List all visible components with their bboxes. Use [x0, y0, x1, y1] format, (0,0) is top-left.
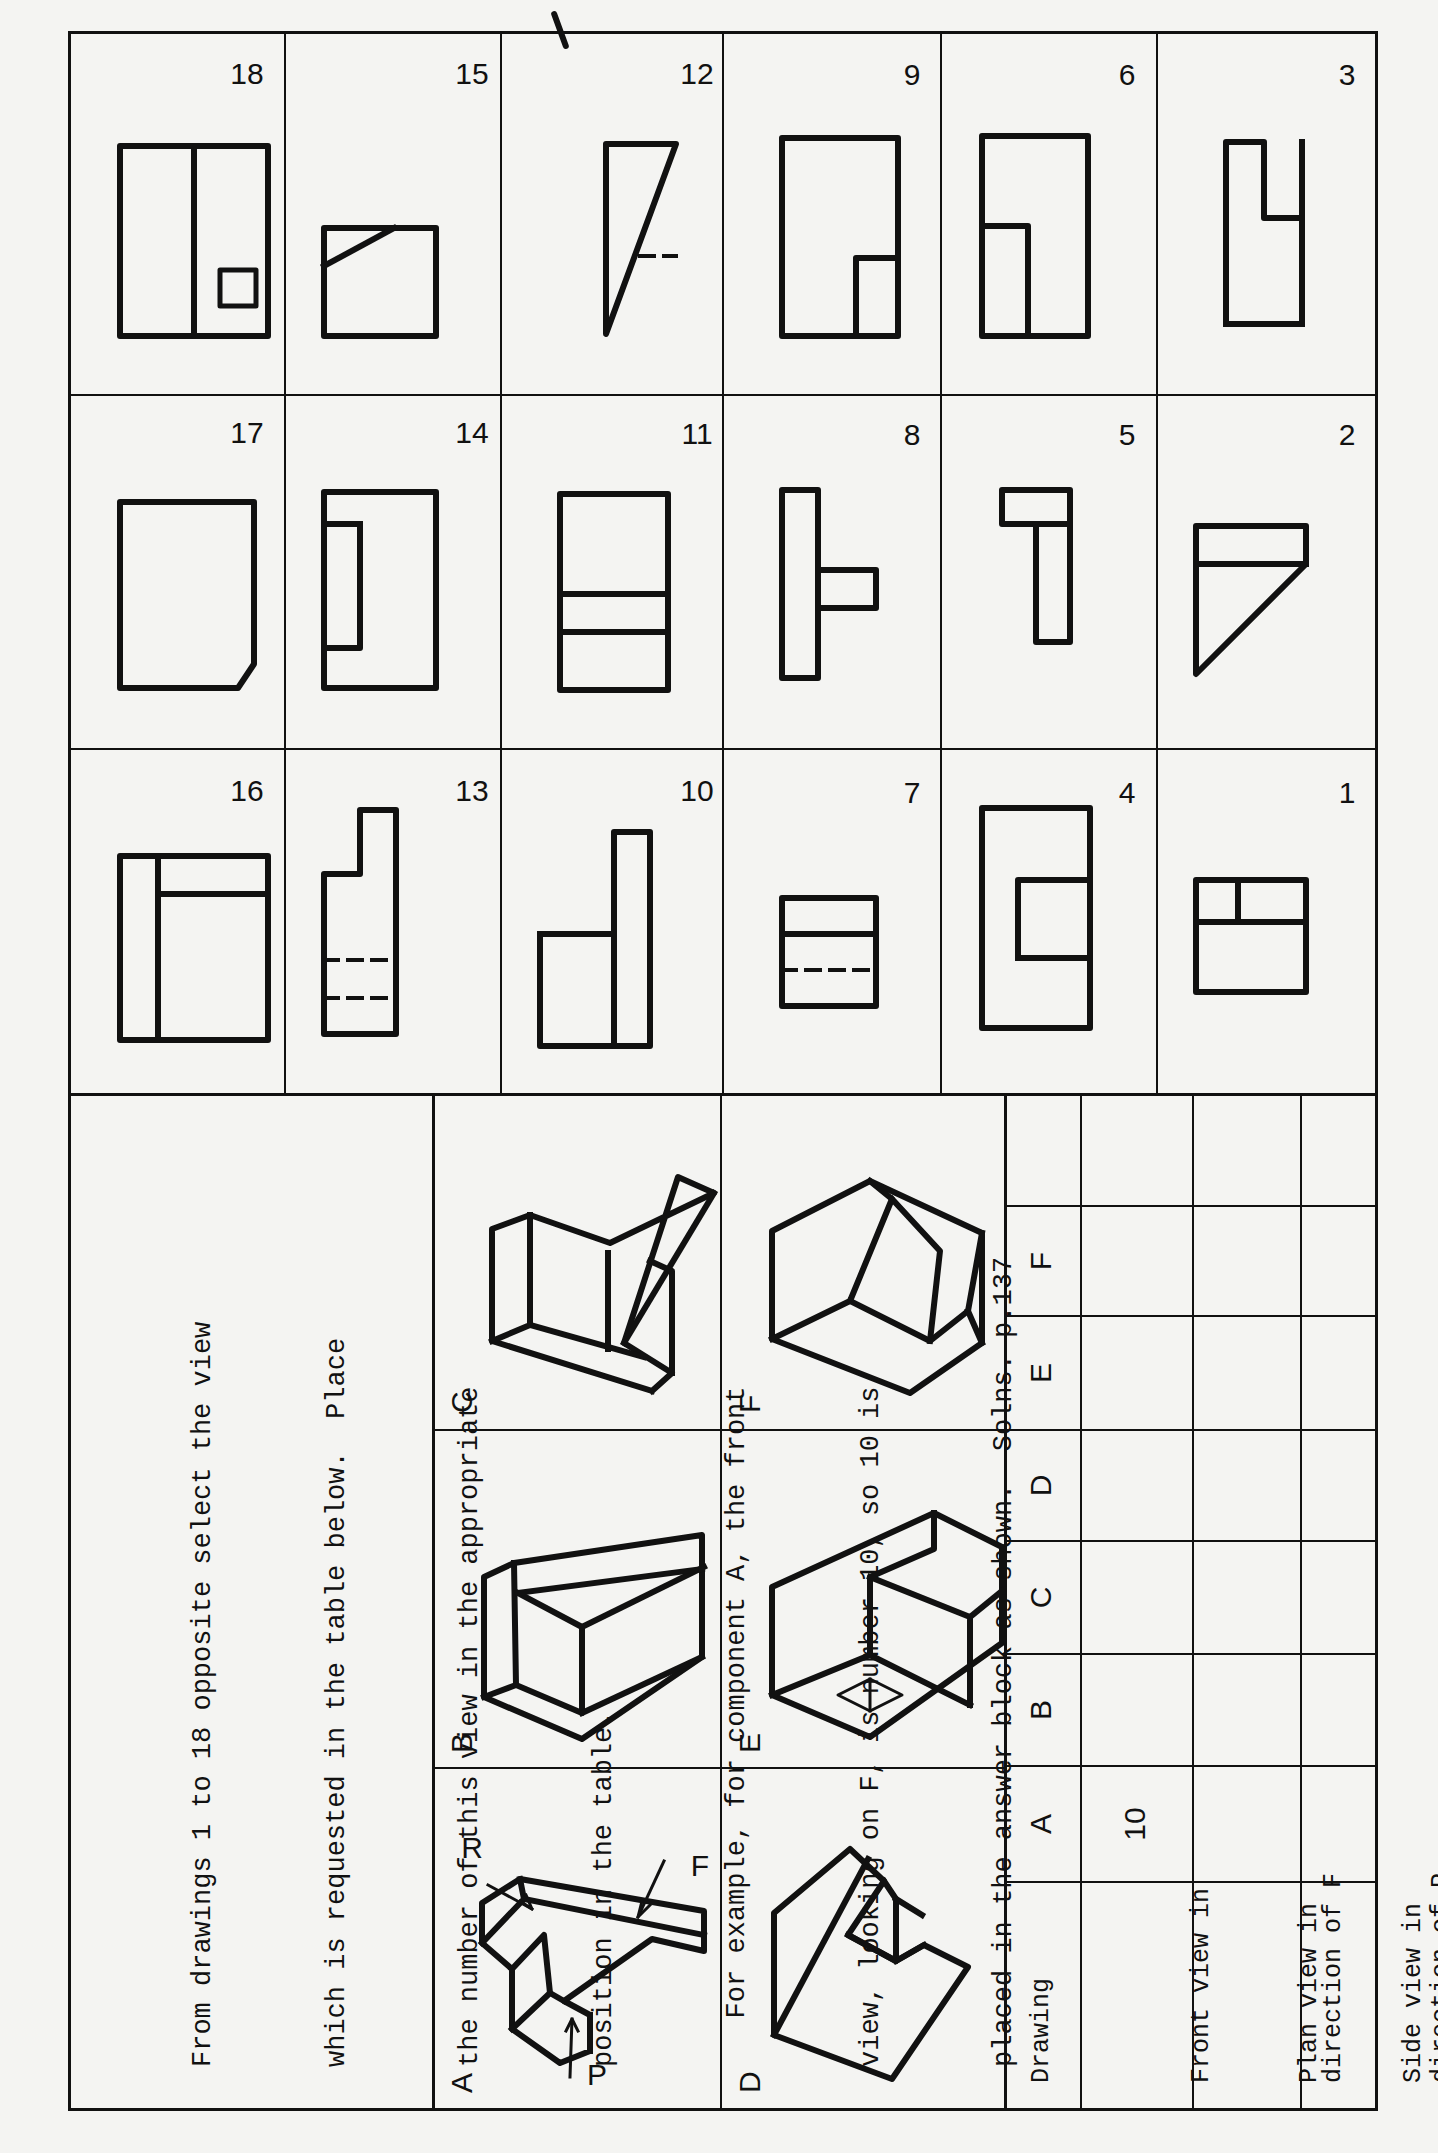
answer-cell-front-f[interactable]	[1118, 1207, 1178, 1315]
table-col-b: B	[1024, 1655, 1058, 1765]
answer-cell-side-e[interactable]	[1316, 1317, 1372, 1429]
view-number-17: 17	[230, 416, 263, 450]
answer-cell-plan-d[interactable]	[1220, 1431, 1280, 1540]
view-number-13: 13	[455, 774, 488, 808]
view-number-7: 7	[904, 776, 921, 810]
arrow-label-r: R	[461, 1831, 483, 1865]
answer-cell-plan-f[interactable]	[1220, 1207, 1280, 1315]
view-number-9: 9	[904, 58, 921, 92]
view-number-2: 2	[1339, 418, 1356, 452]
answer-cell-side-c[interactable]	[1316, 1542, 1372, 1653]
answer-cell-side-a[interactable]	[1316, 1767, 1372, 1881]
answer-cell-plan-e[interactable]	[1220, 1317, 1280, 1429]
instruction-line-2: which is requested in the table below. P…	[315, 1257, 360, 2067]
answer-cell-front-d[interactable]	[1118, 1431, 1178, 1540]
answer-cell-side-b[interactable]	[1316, 1655, 1372, 1765]
view-number-5: 5	[1119, 418, 1136, 452]
view-number-3: 3	[1339, 58, 1356, 92]
table-rule	[1080, 1094, 1082, 2111]
table-col-c: C	[1024, 1542, 1058, 1653]
answer-cell-front-a[interactable]: 10	[1118, 1767, 1178, 1881]
table-col-d: D	[1024, 1431, 1058, 1540]
view-number-16: 16	[230, 774, 263, 808]
view-number-15: 15	[455, 57, 488, 91]
row-label-side: Side view in direction of R	[1304, 1873, 1438, 2083]
answer-cell-plan-c[interactable]	[1220, 1542, 1280, 1653]
answer-cell-side-d[interactable]	[1316, 1431, 1372, 1540]
view-number-1: 1	[1339, 776, 1356, 810]
component-b-isometric	[432, 1431, 720, 1767]
component-d-isometric	[720, 1769, 1004, 2111]
view-number-12: 12	[680, 57, 713, 91]
arrow-label-f: F	[691, 1849, 709, 1883]
table-col-e: E	[1024, 1317, 1058, 1429]
table-col-f: F	[1024, 1207, 1058, 1315]
table-col-a: A	[1024, 1767, 1058, 1881]
answer-cell-plan-a[interactable]	[1220, 1767, 1280, 1881]
view-number-6: 6	[1119, 58, 1136, 92]
view-number-10: 10	[680, 774, 713, 808]
view-number-14: 14	[455, 416, 488, 450]
component-a-isometric	[432, 1769, 720, 2111]
view-number-4: 4	[1119, 776, 1136, 810]
answer-cell-side-f[interactable]	[1316, 1207, 1372, 1315]
answer-cell-plan-b[interactable]	[1220, 1655, 1280, 1765]
component-e-isometric	[720, 1431, 1004, 1767]
table-header-drawing: Drawing	[1020, 1978, 1064, 2083]
view-number-18: 18	[230, 57, 263, 91]
arrow-label-p: P	[587, 2058, 607, 2092]
instruction-line-1: From drawings 1 to 18 opposite select th…	[181, 1257, 226, 2067]
answer-cell-front-e[interactable]	[1118, 1317, 1178, 1429]
worksheet-page: From drawings 1 to 18 opposite select th…	[0, 0, 1438, 2153]
answer-cell-front-c[interactable]	[1118, 1542, 1178, 1653]
component-c-isometric	[432, 1095, 720, 1429]
view-number-8: 8	[904, 418, 921, 452]
view-number-11: 11	[681, 417, 712, 451]
answer-cell-front-b[interactable]	[1118, 1655, 1178, 1765]
component-f-isometric	[720, 1095, 1004, 1429]
